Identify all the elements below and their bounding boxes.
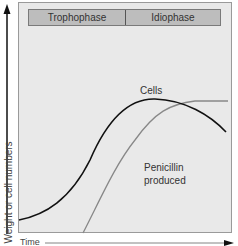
chart-svg — [0, 0, 238, 246]
cells-label: Cells — [140, 85, 162, 96]
x-axis-label: Time — [20, 237, 40, 246]
y-axis-arrow-icon — [4, 4, 11, 14]
x-axis-arrow-icon — [224, 240, 234, 246]
y-axis-label: Weight or cell numbers — [3, 124, 14, 244]
penicillin-label-line2: produced — [144, 175, 186, 186]
cells-curve — [19, 99, 226, 220]
penicillin-label-line1: Penicillin — [144, 162, 183, 173]
